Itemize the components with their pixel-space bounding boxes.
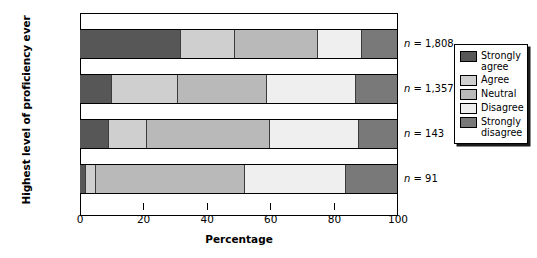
x-axis-tick-label: 40: [201, 213, 214, 225]
legend-swatch-icon: [460, 103, 477, 114]
legend-label: Neutral: [481, 88, 516, 99]
stacked-bar-chart: Highest level of proficiency ever HighMo…: [0, 0, 537, 258]
legend-item: Strongly disagree: [460, 116, 523, 138]
x-axis-tick-label: 100: [388, 213, 408, 225]
legend-item: Agree: [460, 74, 523, 86]
legend-label: Strongly agree: [481, 50, 521, 72]
legend-label: Strongly disagree: [481, 116, 522, 138]
x-axis-tick-label: 0: [77, 213, 84, 225]
x-axis-tick: [334, 203, 335, 210]
x-axis-tick: [270, 203, 271, 210]
x-axis-tick: [207, 203, 208, 210]
legend-label: Disagree: [481, 102, 524, 113]
x-axis-tick-label: 60: [264, 213, 277, 225]
x-axis-title: Percentage: [80, 233, 398, 245]
legend-swatch-icon: [460, 117, 477, 128]
legend-label: Agree: [481, 74, 509, 85]
legend-item: Strongly agree: [460, 50, 523, 72]
legend-swatch-icon: [460, 75, 477, 86]
legend-item: Disagree: [460, 102, 523, 114]
x-axis-tick: [143, 203, 144, 210]
legend: Strongly agreeAgreeNeutralDisagreeStrong…: [454, 44, 528, 144]
legend-item: Neutral: [460, 88, 523, 100]
legend-swatch-icon: [460, 89, 477, 100]
x-axis-tick-label: 80: [328, 213, 341, 225]
x-axis-tick-label: 20: [137, 213, 150, 225]
legend-swatch-icon: [460, 51, 477, 62]
